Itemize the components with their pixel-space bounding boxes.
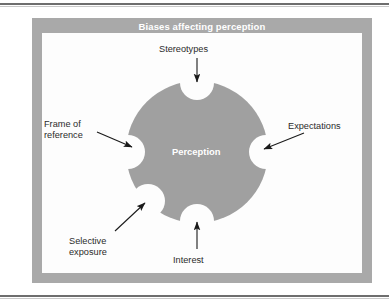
- label-stereotypes: Stereotypes: [159, 44, 208, 55]
- label-interest: Interest: [173, 255, 204, 266]
- label-selective-exposure: Selective exposure: [69, 236, 107, 258]
- top-rule: [0, 3, 389, 5]
- figure-title: Biases affecting perception: [32, 19, 372, 33]
- bottom-rule: [0, 295, 389, 297]
- label-expectations: Expectations: [288, 121, 341, 132]
- bottom-rule-hairline: [0, 298, 389, 299]
- label-selective-exposure-line2: exposure: [69, 247, 107, 257]
- label-frame-of-reference-line1: Frame of: [44, 119, 81, 129]
- perception-center-label: Perception: [172, 146, 220, 157]
- label-frame-of-reference-line2: reference: [44, 130, 83, 140]
- figure-container: Biases affecting perception: [0, 0, 389, 307]
- top-rule-hairline: [0, 6, 389, 7]
- label-selective-exposure-line1: Selective: [69, 236, 106, 246]
- label-frame-of-reference: Frame of reference: [44, 119, 83, 141]
